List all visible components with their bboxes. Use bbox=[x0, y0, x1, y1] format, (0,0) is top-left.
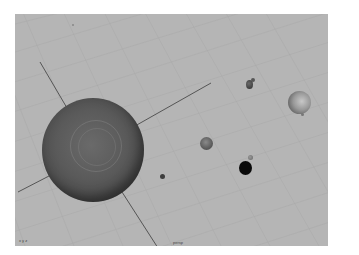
planet-dot-left[interactable] bbox=[160, 174, 165, 179]
axis-gizmo: x y z bbox=[19, 238, 27, 243]
grid-marker-dot bbox=[72, 24, 74, 26]
3d-viewport[interactable]: x y z persp bbox=[15, 14, 328, 246]
planet-ringed[interactable] bbox=[288, 91, 311, 114]
planet-small-upper-moon[interactable] bbox=[251, 78, 255, 82]
sun-inner-ring bbox=[78, 128, 116, 166]
camera-label: persp bbox=[173, 240, 183, 245]
planet-tiny[interactable] bbox=[248, 155, 253, 160]
planet-medium[interactable] bbox=[200, 137, 213, 150]
sun-sphere[interactable] bbox=[42, 98, 144, 202]
planet-ringed-moon[interactable] bbox=[301, 113, 304, 116]
planet-black[interactable] bbox=[239, 161, 252, 175]
